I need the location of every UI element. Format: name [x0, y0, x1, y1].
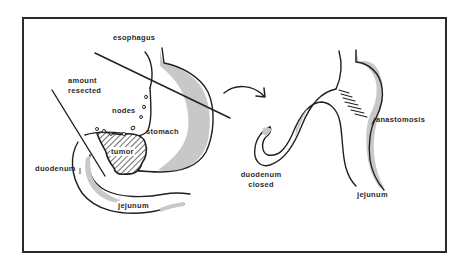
label-jejunum-postop: jejunum — [357, 190, 388, 199]
stomach-mucosa-shade — [158, 50, 210, 172]
label-anastomosis: anastomosis — [376, 115, 425, 124]
gastrectomy-diagram — [0, 0, 467, 269]
label-resected: resected — [68, 86, 101, 95]
label-nodes: nodes — [112, 106, 136, 115]
lymph-nodes — [96, 95, 148, 135]
label-duodenum-closed-line2: closed — [236, 180, 286, 189]
postop-anatomy — [255, 50, 384, 190]
anastomosis-suture-lines — [339, 90, 367, 117]
label-tumor: tumor — [110, 147, 135, 156]
label-duodenum-closed-line1: duodenum — [236, 170, 286, 179]
label-esophagus: esophagus — [113, 33, 155, 42]
esophagus-left-wall — [145, 52, 152, 88]
label-duodenum: duodenum — [35, 164, 76, 173]
jejunum-mucosa-shade — [160, 202, 184, 212]
label-amount: amount — [68, 76, 97, 85]
preop-anatomy — [52, 48, 230, 213]
curved-arrow-icon — [224, 87, 265, 97]
label-stomach: stomach — [146, 127, 179, 136]
esophagus-left-wall-post — [336, 51, 341, 89]
label-jejunum-preop: jejunum — [117, 201, 150, 210]
